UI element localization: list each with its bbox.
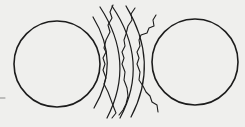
right-circle bbox=[152, 19, 238, 105]
arc-2 bbox=[100, 7, 120, 118]
wavy-line-3 bbox=[137, 15, 158, 112]
arc-4 bbox=[126, 6, 144, 117]
left-circle bbox=[14, 21, 100, 107]
diagram bbox=[0, 0, 245, 127]
wavy-lines-group bbox=[103, 5, 158, 118]
